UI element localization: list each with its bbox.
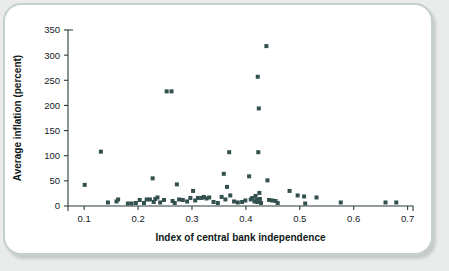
data-point-marker	[257, 191, 261, 195]
data-point-marker	[207, 195, 211, 199]
data-point-marker	[212, 200, 216, 204]
data-point-marker	[243, 198, 247, 202]
data-point-marker	[225, 185, 229, 189]
data-point-marker	[196, 196, 200, 200]
data-point-marker	[315, 195, 319, 199]
data-point-marker	[223, 197, 227, 201]
y-tick-label: 350	[44, 24, 60, 35]
x-tick-label: 0.4	[239, 213, 252, 224]
y-tick-label: 250	[44, 75, 60, 86]
data-point-marker	[288, 189, 292, 193]
data-point-marker	[256, 150, 260, 154]
axes	[68, 30, 413, 211]
x-tick-label: 0.2	[131, 213, 144, 224]
y-tick-label: 100	[44, 150, 60, 161]
data-point-marker	[227, 150, 231, 154]
data-point-marker	[296, 193, 300, 197]
data-point-marker	[177, 197, 181, 201]
y-tick-label: 0	[55, 200, 60, 211]
data-point-marker	[384, 200, 388, 204]
data-point-marker	[185, 199, 189, 203]
data-point-marker	[130, 201, 134, 205]
data-point-marker	[181, 198, 185, 202]
data-point-marker	[170, 89, 174, 93]
data-point-marker	[256, 75, 260, 79]
x-tick-label: 0.3	[185, 213, 198, 224]
data-point-marker	[216, 201, 220, 205]
data-point-marker	[142, 201, 146, 205]
data-point-marker	[339, 200, 343, 204]
data-point-marker	[302, 194, 306, 198]
data-point-marker	[259, 201, 263, 205]
data-point-marker	[116, 197, 120, 201]
data-point-marker	[265, 178, 269, 182]
data-point-marker	[303, 201, 307, 205]
data-point-marker	[254, 194, 258, 198]
x-axis-ticks: 0.10.20.30.40.50.60.7	[78, 206, 415, 224]
data-point-marker	[236, 200, 240, 204]
axis-frame	[68, 30, 413, 211]
data-point-marker	[138, 198, 142, 202]
data-point-marker	[155, 195, 159, 199]
data-point-marker	[264, 44, 268, 48]
x-tick-label: 0.7	[401, 213, 414, 224]
data-point-marker	[173, 201, 177, 205]
y-tick-label: 300	[44, 50, 60, 61]
data-point-marker	[394, 200, 398, 204]
data-point-marker	[99, 150, 103, 154]
x-tick-label: 0.6	[347, 213, 360, 224]
x-axis-title: Index of central bank independence	[155, 232, 325, 243]
y-tick-label: 50	[49, 175, 60, 186]
data-point-marker	[276, 201, 280, 205]
data-point-marker	[191, 189, 195, 193]
data-point-marker	[175, 182, 179, 186]
data-point-marker	[83, 183, 87, 187]
y-axis-ticks: 050100150200250300350	[44, 24, 68, 211]
y-tick-label: 200	[44, 100, 60, 111]
x-tick-label: 0.1	[78, 213, 91, 224]
y-axis-title: Average inflation (percent)	[12, 55, 23, 181]
data-point-marker	[162, 198, 166, 202]
data-point-marker	[106, 200, 110, 204]
y-tick-label: 150	[44, 125, 60, 136]
scatter-plot: 050100150200250300350 0.10.20.30.40.50.6…	[0, 0, 449, 271]
data-point-marker	[158, 200, 162, 204]
data-point-marker	[258, 197, 262, 201]
data-point-marker	[257, 106, 261, 110]
data-point-marker	[151, 176, 155, 180]
data-point-marker	[165, 89, 169, 93]
data-point-marker	[134, 201, 138, 205]
data-point-marker	[220, 195, 224, 199]
data-point-marker	[222, 172, 226, 176]
data-point-marker	[247, 174, 251, 178]
data-point-marker	[232, 199, 236, 203]
data-point-marker	[228, 193, 232, 197]
data-point-marker	[188, 196, 192, 200]
data-points	[83, 44, 399, 205]
data-point-marker	[148, 197, 152, 201]
x-tick-label: 0.5	[293, 213, 306, 224]
data-point-marker	[126, 201, 130, 205]
